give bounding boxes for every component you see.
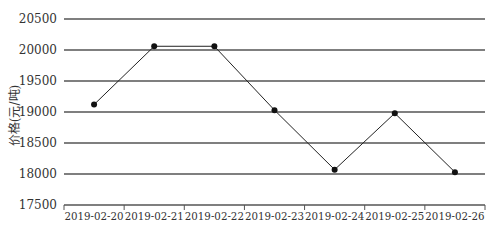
- x-tick-label: 2019-02-23: [245, 209, 304, 223]
- y-tick-label: 18000: [19, 167, 57, 181]
- data-point-marker: [211, 43, 217, 49]
- x-tick-label: 2019-02-26: [425, 209, 484, 223]
- data-point-marker: [272, 107, 278, 113]
- data-point-marker: [332, 167, 338, 173]
- x-tick-label: 2019-02-22: [185, 209, 244, 223]
- y-tick-label: 19000: [19, 105, 57, 119]
- line-chart: 175001800018500190001950020000205002019-…: [0, 0, 494, 231]
- data-point-marker: [91, 102, 97, 108]
- y-tick-label: 17500: [19, 198, 57, 212]
- x-tick-label: 2019-02-20: [65, 209, 124, 223]
- data-point-marker: [452, 169, 458, 175]
- x-tick-label: 2019-02-21: [125, 209, 184, 223]
- data-point-marker: [392, 110, 398, 116]
- x-tick-label: 2019-02-24: [305, 209, 364, 223]
- y-tick-label: 19500: [19, 74, 57, 88]
- data-point-marker: [151, 43, 157, 49]
- y-tick-label: 20000: [19, 43, 57, 57]
- x-tick-label: 2019-02-25: [365, 209, 424, 223]
- y-tick-label: 18500: [19, 136, 57, 150]
- y-tick-label: 20500: [19, 12, 57, 26]
